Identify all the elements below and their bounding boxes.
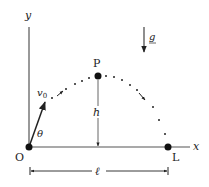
velocity-vector-arrow (29, 102, 45, 147)
gravity-label: g (149, 31, 155, 42)
x-axis-label: x (193, 140, 200, 153)
trajectory-dots (51, 75, 166, 135)
landing-label: L (172, 151, 180, 164)
apex-point (95, 73, 102, 80)
apex-label: P (93, 57, 101, 70)
projectile-diagram: y x O L P v0 θ h ℓ g (0, 0, 209, 187)
velocity-label: v0 (37, 87, 47, 100)
trajectory-arrow-up-icon (57, 91, 63, 96)
diagram-canvas: y x O L P v0 θ h ℓ g (0, 0, 209, 187)
height-label: h (93, 106, 100, 119)
landing-point (165, 144, 172, 151)
origin-point (26, 144, 33, 151)
origin-label: O (15, 151, 24, 164)
range-label: ℓ (95, 165, 100, 178)
y-axis-label: y (24, 9, 32, 22)
angle-label: θ (37, 128, 43, 139)
trajectory-arrow-down-icon (139, 93, 145, 100)
